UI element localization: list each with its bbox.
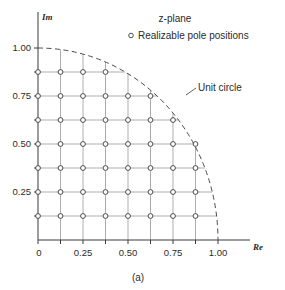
y-tick-label: 0.75 <box>13 90 32 101</box>
pole-marker <box>193 214 198 219</box>
x-tick-label: 1.00 <box>209 247 228 258</box>
pole-marker <box>148 214 153 219</box>
pole-marker <box>193 190 198 195</box>
y-tick-label: 0.50 <box>13 138 32 149</box>
pole-marker <box>193 166 198 171</box>
legend-label: Realizable pole positions <box>138 30 249 41</box>
pole-marker <box>103 70 108 75</box>
figure-container: 00.250.500.751.000.250.500.751.00 Im Re … <box>0 0 285 290</box>
pole-marker <box>58 142 63 147</box>
pole-marker <box>126 190 131 195</box>
pole-marker <box>126 94 131 99</box>
pole-marker <box>148 190 153 195</box>
y-tick-label: 1.00 <box>13 42 32 53</box>
pole-marker <box>36 190 41 195</box>
x-tick-label: 0.25 <box>74 247 93 258</box>
pole-marker <box>103 190 108 195</box>
unit-circle-annotation: Unit circle <box>198 82 242 93</box>
pole-marker <box>58 190 63 195</box>
pole-marker <box>81 118 86 123</box>
pole-marker <box>103 94 108 99</box>
pole-marker <box>81 94 86 99</box>
pole-marker <box>81 190 86 195</box>
pole-marker <box>193 142 198 147</box>
pole-marker <box>171 166 176 171</box>
axes-layer <box>38 12 250 240</box>
pole-marker <box>103 214 108 219</box>
pole-marker <box>171 142 176 147</box>
pole-marker <box>58 166 63 171</box>
tick-labels-layer: 00.250.500.751.000.250.500.751.00 <box>13 42 228 258</box>
pole-marker <box>126 214 131 219</box>
pole-marker <box>36 214 41 219</box>
pole-marker <box>148 94 153 99</box>
pole-marker <box>148 142 153 147</box>
unit-circle-leader-line <box>186 88 196 95</box>
pole-marker <box>58 214 63 219</box>
pole-marker <box>58 70 63 75</box>
legend-marker-icon <box>129 33 134 38</box>
chart-title: z-plane <box>159 13 192 24</box>
pole-marker <box>36 166 41 171</box>
pole-marker <box>126 118 131 123</box>
pole-marker <box>81 70 86 75</box>
pole-marker <box>58 94 63 99</box>
pole-marker <box>81 142 86 147</box>
pole-marker <box>126 166 131 171</box>
pole-marker <box>36 142 41 147</box>
pole-marker <box>36 70 41 75</box>
pole-marker <box>36 118 41 123</box>
pole-marker <box>171 190 176 195</box>
y-tick-label: 0.25 <box>13 186 32 197</box>
pole-marker <box>81 214 86 219</box>
figure-caption: (a) <box>132 272 144 283</box>
pole-marker <box>126 142 131 147</box>
pole-marker <box>36 94 41 99</box>
pole-marker <box>103 142 108 147</box>
pole-marker <box>103 166 108 171</box>
y-axis-label: Im <box>41 12 53 22</box>
x-tick-label: 0 <box>36 247 41 258</box>
pole-marker <box>148 118 153 123</box>
x-tick-label: 0.50 <box>119 247 138 258</box>
pole-marker <box>103 118 108 123</box>
pole-marker <box>58 118 63 123</box>
x-tick-label: 0.75 <box>164 247 183 258</box>
pole-marker <box>81 166 86 171</box>
pole-marker <box>148 166 153 171</box>
x-axis-label: Re <box>252 242 263 252</box>
pole-marker <box>171 118 176 123</box>
pole-position-chart: 00.250.500.751.000.250.500.751.00 Im Re … <box>0 0 285 290</box>
pole-marker <box>171 214 176 219</box>
